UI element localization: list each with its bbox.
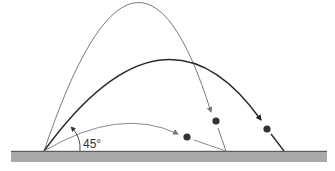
optimal-trajectory [44,59,261,151]
angle-label: 45° [83,137,101,151]
projectile-diagram: 45° [0,0,335,171]
optimal-trajectory-tail [271,134,284,151]
ball-steep [212,117,219,124]
shallow-trajectory-tail [194,140,226,151]
angle-arc-icon [72,128,80,151]
steep-trajectory [44,3,211,151]
shallow-trajectory [44,123,178,151]
steep-trajectory-tail [218,128,226,151]
ground [11,151,327,162]
ball-optimal [263,125,270,132]
ball-shallow [183,133,190,140]
